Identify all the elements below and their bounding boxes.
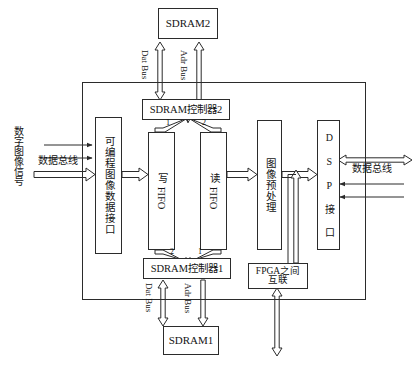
block-image-preprocessing-label: 图像预处理 [264, 158, 275, 213]
block-diagram-canvas: .ln { stroke: #2b2b2b; stroke-width: 1; … [0, 0, 416, 366]
block-fpga-interconnect-label-line2: 互联 [268, 276, 288, 286]
block-sdram-controller-1-label: SDRAM控制器1 [151, 263, 224, 274]
block-sdram-controller-2[interactable]: SDRAM控制器2 [142, 99, 230, 120]
label-digital-image-signal: 数字图像信号 [12, 126, 23, 186]
block-sdram-controller-1[interactable]: SDRAM控制器1 [143, 258, 231, 279]
label-data-bus-right: 数据总线 [352, 164, 392, 175]
label-adr-bus-bottom: Adr Bus [183, 283, 192, 313]
block-read-fifo[interactable]: 读 FIFO [200, 132, 227, 250]
block-fpga-interconnect[interactable]: FPGA之间 互联 [248, 263, 308, 289]
block-dsp-interface-label: D S P 接 口 [323, 132, 334, 238]
block-sdram-controller-2-label: SDRAM控制器2 [150, 104, 223, 115]
block-write-fifo[interactable]: 写 FIFO [148, 132, 175, 250]
label-channel-read-fifo-ctrl1: 1 [198, 248, 202, 256]
block-sdram1[interactable]: SDRAM1 [163, 326, 219, 355]
label-channel-ctrl2-read-fifo: 2 [202, 119, 206, 127]
block-write-fifo-label: 写 FIFO [156, 173, 167, 209]
block-sdram2-label: SDRAM2 [166, 18, 211, 30]
block-dsp-interface[interactable]: D S P 接 口 [317, 120, 340, 250]
label-data-bus-left: 数据总线 [38, 156, 78, 167]
block-programmable-image-interface-label: 可编程图像数据接口 [103, 136, 114, 235]
block-programmable-image-interface[interactable]: 可编程图像数据接口 [95, 117, 122, 254]
label-dat-bus-bottom: Dat Bus [144, 283, 153, 312]
block-sdram1-label: SDRAM1 [169, 335, 214, 347]
block-sdram2[interactable]: SDRAM2 [158, 8, 218, 39]
label-adr-bus-top: Adr Bus [179, 50, 188, 80]
block-image-preprocessing[interactable]: 图像预处理 [257, 120, 282, 250]
label-channel-ctrl2-write-fifo: 1 [166, 119, 170, 127]
block-read-fifo-label: 读 FIFO [208, 173, 219, 209]
label-dat-bus-top: Dat Bus [140, 50, 149, 79]
label-channel-write-fifo-ctrl1: 2 [170, 248, 174, 256]
